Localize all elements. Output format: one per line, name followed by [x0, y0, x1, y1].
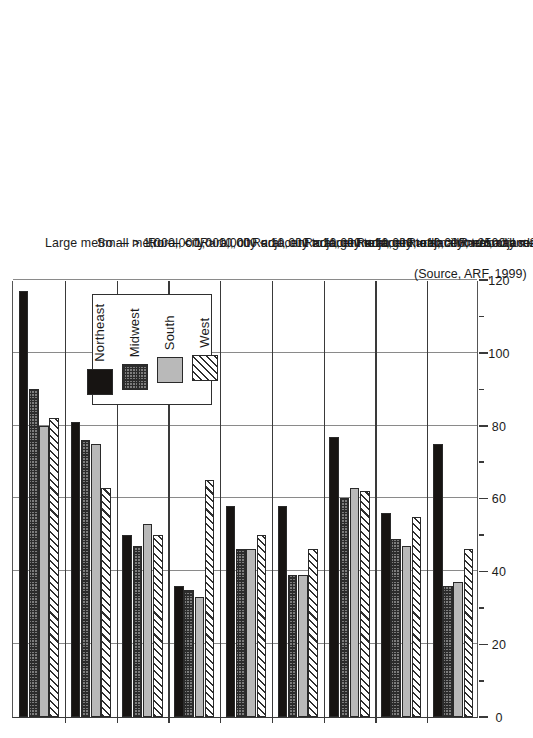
plot-outer: 020406080100120 NortheastMidwestSouthWes…	[12, 281, 478, 718]
bar-west-0	[49, 418, 59, 717]
bar-midwest-4	[236, 549, 246, 717]
bar-south-7	[402, 546, 412, 717]
bar-west-4	[257, 535, 267, 717]
bar-south-0	[39, 426, 49, 717]
bar-south-8	[453, 582, 463, 717]
legend-swatch-west-icon	[192, 355, 218, 381]
bar-midwest-7	[391, 539, 401, 717]
legend-label: Northeast	[92, 304, 107, 362]
category-separator	[375, 281, 376, 723]
bar-northeast-2	[122, 535, 132, 717]
bar-south-4	[246, 549, 256, 717]
bar-west-8	[464, 549, 474, 717]
bar-south-5	[298, 575, 308, 717]
plot-area	[12, 281, 478, 718]
category-separator	[324, 281, 325, 723]
bar-midwest-8	[443, 586, 453, 717]
bar-west-2	[153, 535, 163, 717]
bar-midwest-6	[340, 499, 350, 718]
bar-midwest-0	[29, 389, 39, 717]
bar-midwest-1	[81, 440, 91, 717]
bar-northeast-5	[278, 506, 288, 717]
category-separator	[65, 281, 66, 723]
legend-label: South	[162, 315, 177, 350]
category-separator	[427, 281, 428, 723]
bar-northeast-0	[19, 291, 29, 717]
chart-legend: NortheastMidwestSouthWest	[92, 294, 212, 405]
tick-70	[479, 462, 484, 464]
legend-item-west: West	[192, 318, 218, 381]
bar-south-6	[350, 488, 360, 717]
category-separator	[220, 281, 221, 723]
bar-midwest-3	[184, 590, 194, 717]
legend-label: West	[197, 318, 212, 348]
tick-label-100: 100	[487, 347, 511, 361]
tick-label-0: 0	[487, 711, 511, 725]
bar-west-1	[101, 488, 111, 717]
category-separator	[272, 281, 273, 723]
bar-west-7	[412, 517, 422, 717]
bar-south-2	[143, 524, 153, 717]
legend-item-midwest: Midwest	[122, 308, 148, 390]
legend-item-south: South	[157, 315, 183, 383]
bar-west-5	[308, 549, 318, 717]
tick-50	[479, 534, 484, 536]
chart-figure: 020406080100120 NortheastMidwestSouthWes…	[0, 0, 533, 738]
bar-northeast-6	[329, 437, 339, 717]
bar-midwest-5	[288, 575, 298, 717]
tick-90	[479, 389, 484, 391]
legend-swatch-northeast-icon	[87, 369, 113, 395]
bar-west-3	[205, 480, 215, 717]
bar-groups	[13, 281, 477, 717]
tick-10	[479, 680, 484, 682]
rotated-chart-canvas: 020406080100120 NortheastMidwestSouthWes…	[0, 0, 533, 738]
legend-swatch-midwest-icon	[122, 364, 148, 390]
legend-swatch-south-icon	[157, 357, 183, 383]
gridline-120	[13, 279, 477, 280]
bar-west-6	[360, 491, 370, 717]
bar-northeast-1	[71, 422, 81, 717]
tick-label-20: 20	[487, 638, 511, 652]
source-note: (Source, ARF, 1999)	[414, 267, 527, 281]
tick-label-60: 60	[487, 493, 511, 507]
bar-midwest-2	[133, 546, 143, 717]
bar-south-1	[91, 444, 101, 717]
tick-30	[479, 607, 484, 609]
bar-northeast-7	[381, 513, 391, 717]
tick-label-80: 80	[487, 420, 511, 434]
bar-south-3	[195, 597, 205, 717]
legend-item-northeast: Northeast	[87, 304, 113, 395]
bar-northeast-4	[226, 506, 236, 717]
bar-northeast-8	[433, 444, 443, 717]
legend-label: Midwest	[127, 308, 142, 357]
bar-northeast-3	[174, 586, 184, 717]
tick-110	[479, 316, 484, 318]
tick-label-40: 40	[487, 565, 511, 579]
